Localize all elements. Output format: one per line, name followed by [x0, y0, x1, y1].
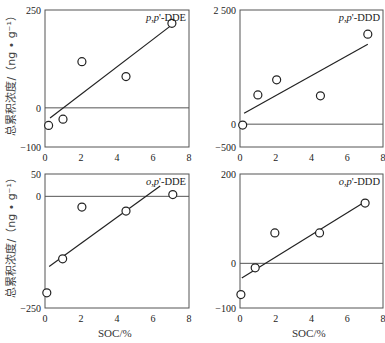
data-point [59, 255, 67, 263]
x-tick-label: 4 [309, 313, 314, 324]
y-tick-label: −100 [215, 303, 236, 314]
chart-panel-opddd: 2000−10002468o,p'-DDD [215, 169, 385, 324]
y-tick-label: −250 [20, 303, 41, 314]
panel-title: o,p'-DDD [339, 176, 381, 187]
regression-line [244, 44, 368, 113]
data-point [169, 191, 177, 199]
x-tick-label: 4 [115, 152, 120, 163]
data-point [316, 92, 324, 100]
chart-panel-ppdde: 2500−10002468p,p'-DDE [20, 5, 191, 163]
data-point [78, 203, 86, 211]
y-axis-label-top: 总累积浓度/（ng • g⁻¹） [2, 21, 18, 136]
x-tick-label: 2 [273, 152, 278, 163]
data-point [364, 30, 372, 38]
x-tick-label: 8 [381, 313, 385, 324]
x-tick-label: 2 [273, 313, 278, 324]
data-point [254, 91, 262, 99]
x-tick-label: 0 [238, 152, 243, 163]
data-point [271, 229, 279, 237]
y-tick-label: −500 [215, 142, 236, 153]
y-tick-label: 250 [26, 5, 41, 16]
y-tick-label: 2 500 [214, 5, 237, 16]
x-tick-label: 2 [79, 152, 84, 163]
data-point [237, 291, 245, 299]
data-point [361, 199, 369, 207]
chart-panels: 2500−10002468p,p'-DDE2 5000−50002468p,p'… [0, 0, 385, 343]
x-axis-label-left: SOC/% [98, 327, 132, 339]
figure: 总累积浓度/（ng • g⁻¹） 总累积浓度/（ng • g⁻¹） SOC/% … [0, 0, 385, 343]
plot-frame [45, 174, 189, 308]
regression-line [50, 25, 172, 118]
plot-frame [45, 10, 189, 147]
plot-frame [240, 10, 383, 147]
data-point [239, 121, 247, 129]
data-point [59, 115, 67, 123]
y-tick-label: 0 [36, 191, 41, 202]
data-point [45, 121, 53, 129]
x-tick-label: 4 [115, 313, 120, 324]
x-tick-label: 8 [187, 313, 192, 324]
x-tick-label: 0 [238, 313, 243, 324]
y-tick-label: 200 [221, 169, 236, 180]
y-tick-label: 0 [231, 258, 236, 269]
x-tick-label: 2 [79, 313, 84, 324]
x-tick-label: 8 [381, 152, 385, 163]
x-tick-label: 6 [151, 313, 156, 324]
data-point [122, 207, 130, 215]
y-tick-label: 0 [36, 103, 41, 114]
data-point [273, 76, 281, 84]
x-axis-label-right: SOC/% [292, 327, 326, 339]
x-tick-label: 0 [43, 313, 48, 324]
panel-title: p,p'-DDE [145, 12, 186, 23]
chart-panel-opdde: 500−25002468o,p'-DDE [20, 169, 191, 324]
chart-panel-ppddd: 2 5000−50002468p,p'-DDD [214, 5, 385, 163]
panel-title: p,p'-DDD [338, 12, 381, 23]
data-point [78, 58, 86, 66]
x-tick-label: 0 [43, 152, 48, 163]
y-tick-label: 50 [31, 169, 41, 180]
x-tick-label: 6 [151, 152, 156, 163]
data-point [122, 73, 130, 81]
plot-frame [240, 174, 383, 308]
data-point [251, 264, 259, 272]
y-tick-label: −100 [20, 142, 41, 153]
y-tick-label: 0 [231, 119, 236, 130]
data-point [43, 289, 51, 297]
y-axis-label-bottom: 总累积浓度/（ng • g⁻¹） [2, 183, 18, 298]
x-tick-label: 8 [187, 152, 192, 163]
x-tick-label: 6 [345, 152, 350, 163]
regression-line [49, 186, 160, 266]
data-point [316, 229, 324, 237]
x-tick-label: 4 [309, 152, 314, 163]
panel-title: o,p'-DDE [146, 176, 186, 187]
x-tick-label: 6 [345, 313, 350, 324]
regression-line [242, 202, 364, 278]
